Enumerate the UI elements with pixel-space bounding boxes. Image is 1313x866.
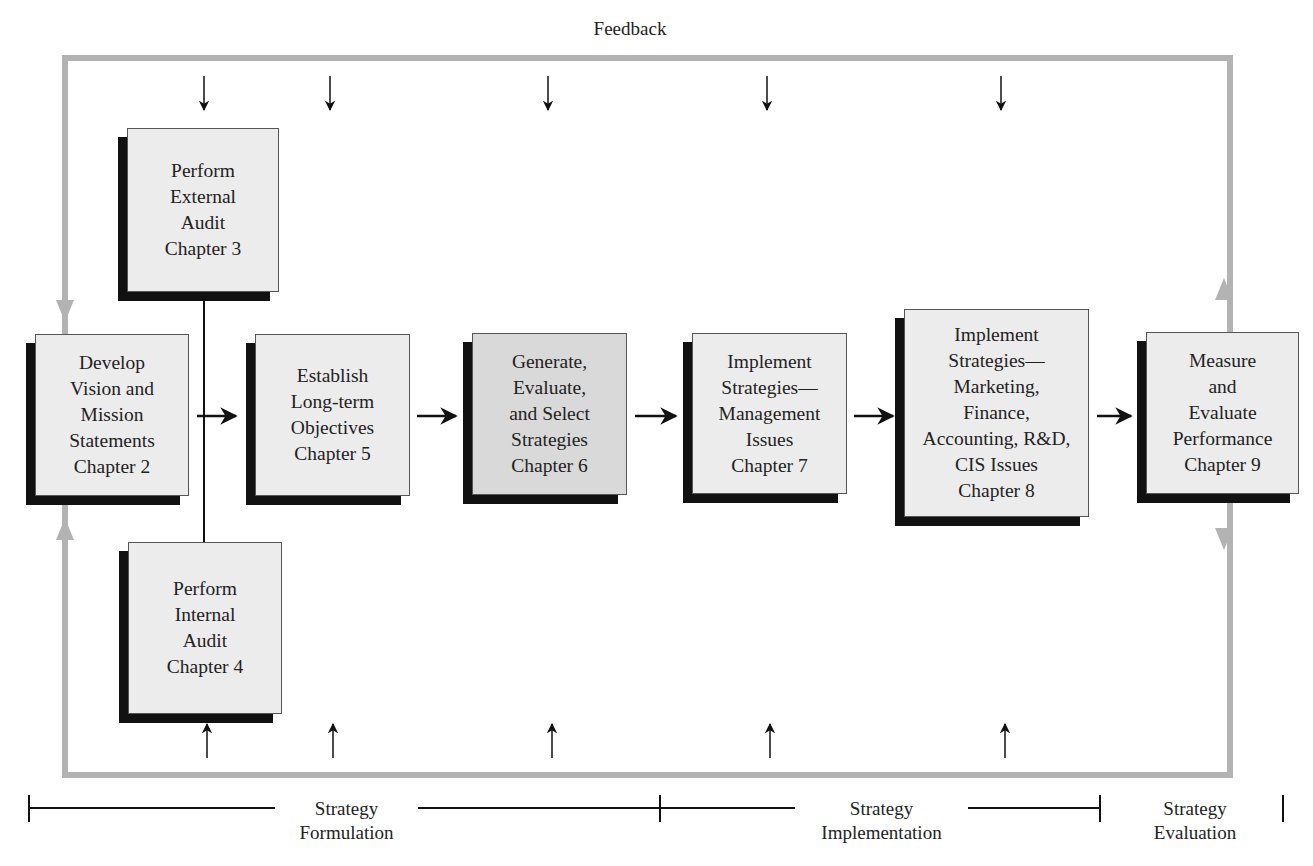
box-implement-management-label: Implement Strategies— Management Issues … [719, 349, 821, 479]
box-internal-audit: Perform Internal Audit Chapter 4 [128, 542, 282, 714]
box-generate-strategies: Generate, Evaluate, and Select Strategie… [472, 333, 627, 495]
box-vision-mission-label: Develop Vision and Mission Statements Ch… [69, 350, 155, 480]
up-arrows [207, 724, 1005, 758]
box-measure-evaluate-label: Measure and Evaluate Performance Chapter… [1173, 348, 1273, 478]
phase-formulation-label: Strategy Formulation [275, 797, 418, 845]
box-generate-strategies-label: Generate, Evaluate, and Select Strategie… [509, 349, 590, 479]
down-arrows [204, 76, 1001, 110]
box-external-audit: Perform External Audit Chapter 3 [127, 128, 279, 292]
box-vision-mission: Develop Vision and Mission Statements Ch… [35, 334, 189, 496]
box-measure-evaluate: Measure and Evaluate Performance Chapter… [1146, 332, 1299, 494]
phase-implementation-label: Strategy Implementation [795, 797, 968, 845]
box-long-term-objectives-label: Establish Long-term Objectives Chapter 5 [291, 363, 374, 467]
box-implement-functional-label: Implement Strategies— Marketing, Finance… [923, 322, 1071, 504]
box-implement-functional: Implement Strategies— Marketing, Finance… [904, 309, 1089, 517]
box-implement-management: Implement Strategies— Management Issues … [692, 333, 847, 494]
phase-timeline [29, 795, 1283, 822]
box-long-term-objectives: Establish Long-term Objectives Chapter 5 [255, 334, 410, 496]
phase-evaluation-label: Strategy Evaluation [1125, 797, 1265, 845]
box-external-audit-label: Perform External Audit Chapter 3 [165, 158, 241, 262]
box-internal-audit-label: Perform Internal Audit Chapter 4 [167, 576, 243, 680]
